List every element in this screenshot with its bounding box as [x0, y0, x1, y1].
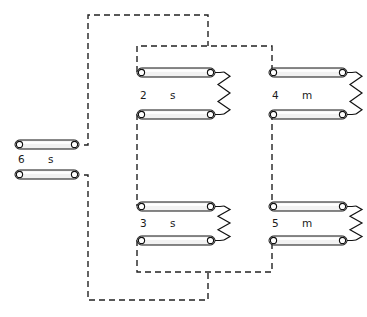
coil-bar [269, 202, 347, 211]
coil-bar-highlight [142, 204, 211, 206]
coil-lead [215, 206, 224, 207]
coil-terminal-right [207, 203, 213, 209]
coil-terminal-left [270, 203, 276, 209]
coil-terminal-right [339, 203, 345, 209]
coil-bar-highlight [274, 70, 343, 72]
coil-terminal-left [270, 237, 276, 243]
coil-terminal-right [207, 111, 213, 117]
coil-bar [269, 68, 347, 77]
coil-lead [347, 206, 356, 207]
coil-2 [137, 68, 230, 119]
coil-bar [137, 236, 215, 245]
coil-bar [269, 236, 347, 245]
coil-type-label: s [170, 89, 175, 101]
coil-bar-highlight [142, 70, 211, 72]
coil-3 [137, 202, 230, 245]
coil-lead [215, 240, 224, 241]
coil-type-label: s [48, 153, 53, 165]
schematic-canvas: 6s2s4m3s5m [0, 0, 367, 317]
wire-outer-top [84, 15, 208, 145]
coil-resistor-zigzag [350, 72, 362, 114]
coil-terminal-left [138, 237, 144, 243]
coil-number-label: 3 [140, 217, 147, 229]
coil-terminal-left [16, 141, 22, 147]
coil-terminal-right [71, 171, 77, 177]
coil-terminal-right [339, 69, 345, 75]
coil-lead [215, 72, 224, 73]
coil-number-label: 4 [272, 89, 279, 101]
coil-terminal-right [339, 111, 345, 117]
coil-terminal-left [270, 111, 276, 117]
coil-bar [137, 202, 215, 211]
coil-lead [347, 114, 356, 115]
coil-terminal-left [138, 69, 144, 75]
coil-number-label: 6 [18, 153, 25, 165]
coil-terminal-right [207, 69, 213, 75]
coil-bar [15, 140, 79, 149]
coil-resistor-zigzag [218, 72, 230, 114]
coil-bar-highlight [274, 238, 343, 240]
coil-terminal-right [207, 237, 213, 243]
coil-bar [137, 110, 215, 119]
coil-4 [269, 68, 362, 119]
coil-type-label: s [170, 217, 175, 229]
coil-bar [137, 68, 215, 77]
coil-resistor-zigzag [218, 206, 230, 240]
coil-terminal-left [138, 203, 144, 209]
dashed-wire-layer [84, 15, 272, 300]
coil-lead [347, 240, 356, 241]
coil-type-label: m [302, 89, 312, 101]
coil-terminal-left [270, 69, 276, 75]
coil-terminal-left [16, 171, 22, 177]
coil-lead [347, 72, 356, 73]
coil-5 [269, 202, 362, 245]
winding-schematic-diagram: 6s2s4m3s5m [0, 0, 367, 317]
coil-bar-highlight [274, 204, 343, 206]
coil-terminal-right [71, 141, 77, 147]
coil-terminal-right [339, 237, 345, 243]
coil-bar-highlight [142, 112, 211, 114]
coil-bar-highlight [274, 112, 343, 114]
coil-bar-highlight [20, 142, 75, 144]
coil-resistor-zigzag [350, 206, 362, 240]
coil-type-label: m [302, 217, 312, 229]
coil-bar-highlight [20, 172, 75, 174]
coil-bar [15, 170, 79, 179]
coil-terminal-left [138, 111, 144, 117]
coil-number-label: 2 [140, 89, 147, 101]
coil-bar-highlight [142, 238, 211, 240]
coil-bar [269, 110, 347, 119]
coil-lead [215, 114, 224, 115]
coil-number-label: 5 [272, 217, 279, 229]
